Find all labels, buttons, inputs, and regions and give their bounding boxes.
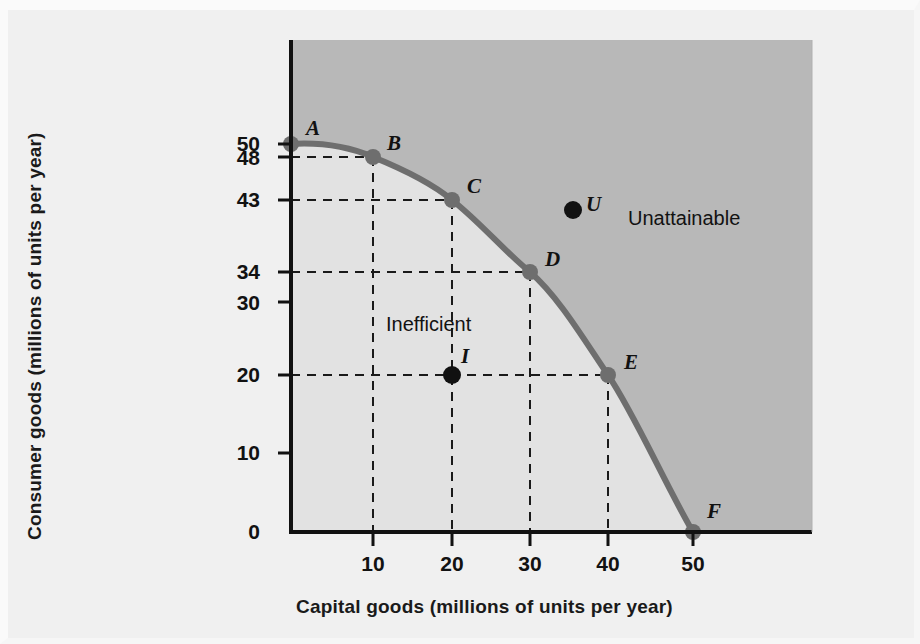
x-axis-ticks bbox=[373, 532, 693, 546]
y-tick-label-0: 0 bbox=[200, 520, 260, 544]
y-tick-label-43: 43 bbox=[200, 188, 260, 212]
region-label-unattainable: Unattainable bbox=[628, 207, 740, 230]
x-tick-label-30: 30 bbox=[500, 552, 560, 576]
region-label-inefficient: Inefficient bbox=[386, 313, 471, 336]
point-label-f: F bbox=[707, 499, 721, 524]
point-label-u: U bbox=[586, 192, 601, 217]
x-tick-label-50: 50 bbox=[663, 552, 723, 576]
y-tick-label-20: 20 bbox=[200, 363, 260, 387]
y-tick-label-48: 48 bbox=[200, 146, 260, 170]
x-tick-label-10: 10 bbox=[343, 552, 403, 576]
point-label-e: E bbox=[624, 350, 638, 375]
point-label-c: C bbox=[467, 174, 481, 199]
point-label-b: B bbox=[387, 131, 401, 156]
y-tick-label-34: 34 bbox=[200, 260, 260, 284]
y-tick-label-10: 10 bbox=[200, 441, 260, 465]
ppf-figure: 50 48 43 34 30 20 10 0 10 20 30 40 50 A … bbox=[0, 0, 920, 644]
marker-point-c bbox=[444, 192, 460, 208]
y-tick-label-30: 30 bbox=[200, 291, 260, 315]
y-axis-title: Consumer goods (millions of units per ye… bbox=[24, 132, 46, 540]
marker-point-d bbox=[522, 264, 538, 280]
marker-point-e bbox=[600, 367, 616, 383]
marker-point-i bbox=[443, 366, 461, 384]
marker-point-u bbox=[564, 201, 582, 219]
point-label-i: I bbox=[461, 344, 469, 369]
point-label-a: A bbox=[306, 116, 320, 141]
x-axis-title: Capital goods (millions of units per yea… bbox=[296, 596, 673, 618]
x-tick-label-20: 20 bbox=[422, 552, 482, 576]
marker-point-b bbox=[365, 149, 381, 165]
x-tick-label-40: 40 bbox=[578, 552, 638, 576]
point-label-d: D bbox=[545, 247, 560, 272]
